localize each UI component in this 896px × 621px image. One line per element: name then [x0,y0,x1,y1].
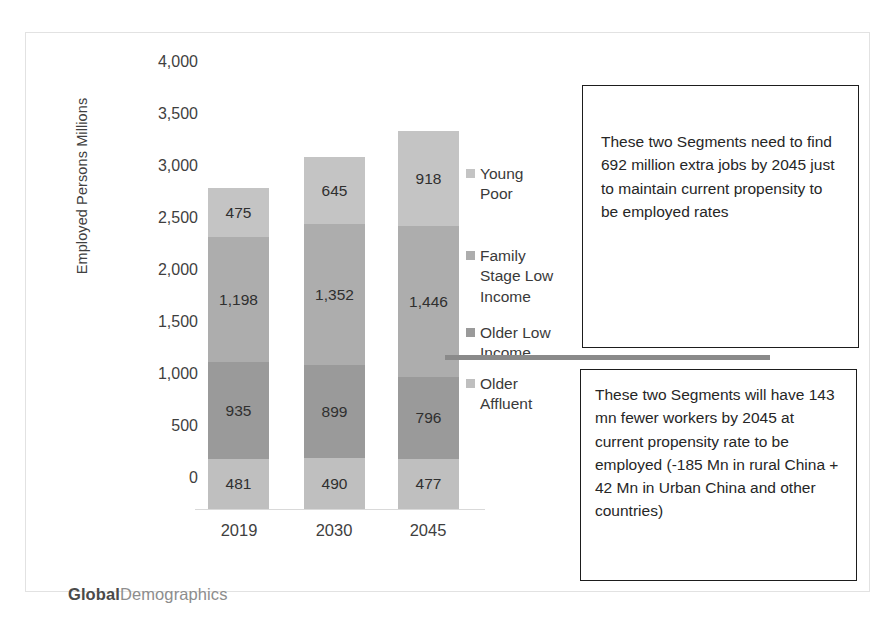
bar-segment[interactable]: 490 [304,458,365,509]
legend-swatch-icon [466,251,475,260]
bar-segment[interactable]: 477 [398,459,459,509]
x-axis-labels: 2019 2030 2045 [183,517,483,545]
bar-segment[interactable]: 645 [304,157,365,224]
x-tick-label: 2045 [388,521,468,540]
bar-segment-label: 481 [226,476,252,492]
legend-swatch-icon [466,328,475,337]
bar-stack-2019[interactable]: 4751,198935481 [208,188,269,509]
bar-segment-label: 477 [416,476,442,492]
bar-segment-label: 918 [416,171,442,187]
plot-area: 4751,198935481 6451,352899490 9181,44679… [183,33,483,593]
bar-segment-label: 935 [226,403,252,419]
bar-segment-label: 645 [322,183,348,199]
bar-segment[interactable]: 935 [208,362,269,459]
legend-item-young-poor[interactable]: Young Poor [466,164,554,204]
legend-item-label: Family Stage Low Income [480,246,554,306]
bar-segment-label: 1,352 [315,287,354,303]
brand-logo-bold: Global [68,585,120,603]
bar-segment[interactable]: 918 [398,131,459,226]
bar-segment[interactable]: 899 [304,365,365,458]
callout-box-worker-decline: These two Segments will have 143 mn fewe… [580,369,857,581]
legend-item-older-affluent[interactable]: Older Affluent [466,374,554,414]
legend-swatch-icon [466,169,475,178]
bar-stack-2030[interactable]: 6451,352899490 [304,157,365,509]
bar-segment-label: 899 [322,404,348,420]
bar-segment[interactable]: 481 [208,459,269,509]
bar-segment-label: 1,446 [409,294,448,310]
x-tick-label: 2030 [294,521,374,540]
y-axis-title-container: Employed Persons Millions [78,151,104,451]
chart-legend: Young Poor Family Stage Low Income Older… [466,164,554,418]
callout-box-jobs-gap: These two Segments need to find 692 mill… [582,85,859,348]
legend-item-label: Young Poor [480,164,554,204]
bar-segment-label: 475 [226,205,252,221]
bar-segment-label: 796 [416,410,442,426]
brand-logo-light: Demographics [120,585,228,603]
legend-item-family-stage-low-income[interactable]: Family Stage Low Income [466,246,554,306]
bar-segment[interactable]: 1,352 [304,224,365,365]
x-tick-label: 2019 [199,521,279,540]
callout-divider [445,355,770,360]
legend-item-label: Older Affluent [480,374,554,414]
bar-segment-label: 490 [322,476,348,492]
bar-stack-2045[interactable]: 9181,446796477 [398,131,459,509]
y-axis-title: Employed Persons Millions [74,71,96,301]
legend-swatch-icon [466,379,475,388]
bar-segment[interactable]: 796 [398,377,459,460]
axis-baseline [195,509,485,510]
brand-logo: GlobalDemographics [68,585,228,604]
bar-segment[interactable]: 475 [208,188,269,237]
bar-segment[interactable]: 1,198 [208,237,269,362]
bar-segment-label: 1,198 [219,292,258,308]
